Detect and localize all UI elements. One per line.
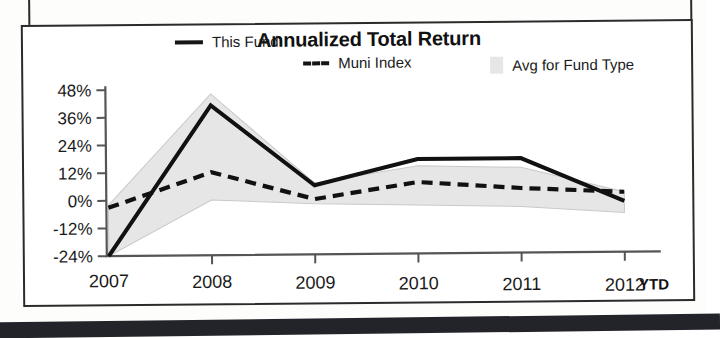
plot-area: 48%36%24%12%0%-12%-24% 20072008200920102… <box>23 21 693 305</box>
x-axis-tick-label: 2008 <box>192 272 232 292</box>
y-axis-tick-label: 12% <box>58 164 92 183</box>
page-bottom-band <box>0 314 720 338</box>
y-axis-tick-label: 0% <box>68 192 93 211</box>
y-axis-tick-label: -12% <box>53 220 93 239</box>
x-axis-tick-labels: 200720082009201020112012 <box>89 266 645 299</box>
y-axis-tick-label: 36% <box>57 109 91 128</box>
chart-panel: Annualized Total Return This Fund Muni I… <box>21 19 695 307</box>
x-axis-tick-label: 2010 <box>399 273 439 293</box>
x-axis-tick-label: 2007 <box>89 271 129 291</box>
y-axis-tick-labels: 48%36%24%12%0%-12%-24% <box>52 81 93 266</box>
y-axis-tick-label: -24% <box>53 247 93 266</box>
y-axis-tick-label: 24% <box>58 137 92 156</box>
ytd-annotation: YTD <box>639 275 669 292</box>
x-axis-tick-label: 2011 <box>502 274 541 294</box>
y-axis-tick-label: 48% <box>57 81 91 100</box>
annualized-total-return-chart: 48%36%24%12%0%-12%-24% 20072008200920102… <box>23 21 693 305</box>
x-axis-tick-label: 2009 <box>295 272 335 292</box>
